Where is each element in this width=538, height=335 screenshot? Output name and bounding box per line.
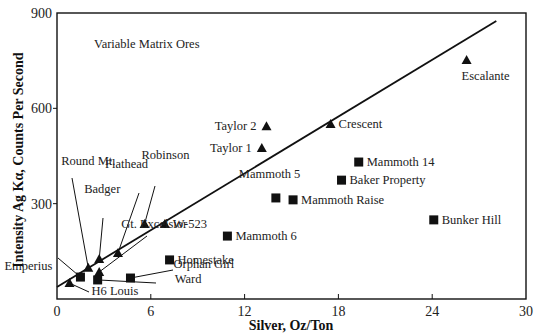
point-label-bunker-hill: Bunker Hill <box>442 213 502 227</box>
point-label-taylor-2: Taylor 2 <box>215 119 257 133</box>
point-label-mammoth-6: Mammoth 6 <box>235 229 296 243</box>
point-label-homestake: Homestake <box>178 253 235 267</box>
square-marker-baker-property <box>337 176 346 185</box>
y-tick-label: 900 <box>31 6 52 21</box>
point-label-gt-excelsior: Gt. Excelsior <box>121 217 188 231</box>
regression-line <box>57 21 496 287</box>
point-labels: EscalanteCrescentTaylor 2Taylor 1Robinso… <box>4 69 509 298</box>
x-axis-title: Silver, Oz/Ton <box>249 318 334 333</box>
point-label-round-mt: Round Mt. <box>61 154 115 168</box>
x-tick-label: 6 <box>147 304 154 319</box>
point-label-crescent: Crescent <box>339 117 383 131</box>
square-marker-orphan-girl <box>126 274 135 283</box>
triangle-marker-gt-excelsior <box>94 267 104 276</box>
y-tick-label: 300 <box>31 197 52 212</box>
triangle-marker-round-mt <box>83 263 93 272</box>
y-tick-label: 600 <box>31 101 52 116</box>
scatter-chart: 0612182430300600900 EscalanteCrescentTay… <box>0 0 538 335</box>
point-label-mammoth-14: Mammoth 14 <box>367 155 435 169</box>
triangle-marker-h6-louis <box>65 278 75 287</box>
square-marker-mammoth-5 <box>271 193 280 202</box>
square-marker-mammoth-raise <box>289 195 298 204</box>
x-tick-label: 24 <box>425 304 439 319</box>
square-marker-ward <box>93 275 102 284</box>
triangle-marker-taylor-2 <box>261 121 271 130</box>
y-axis-title: Intensity Ag Kα, Counts Per Second <box>11 52 26 267</box>
triangle-marker-taylor-1 <box>257 143 267 152</box>
leader-badger <box>99 218 103 259</box>
point-label-mammoth-raise: Mammoth Raise <box>301 193 384 207</box>
square-marker-mammoth-6 <box>223 232 232 241</box>
fit-line <box>57 21 496 287</box>
point-label-baker-property: Baker Property <box>350 173 427 187</box>
triangle-marker-escalante <box>462 55 472 64</box>
point-label-taylor-1: Taylor 1 <box>210 141 252 155</box>
square-marker-emperius <box>76 273 85 282</box>
chart-annotation: Variable Matrix Ores <box>94 37 200 51</box>
x-tick-label: 30 <box>519 304 533 319</box>
leader-orphan-girl <box>130 270 173 278</box>
point-label-ward: Ward <box>175 272 203 286</box>
point-label-h6-louis: H6 Louis <box>92 284 139 298</box>
point-label-badger: Badger <box>84 182 121 196</box>
square-marker-mammoth-14 <box>354 158 363 167</box>
point-label-mammoth-5: Mammoth 5 <box>239 167 300 181</box>
x-tick-label: 18 <box>331 304 345 319</box>
square-marker-bunker-hill <box>429 215 438 224</box>
leader-gt-excelsior <box>99 236 147 272</box>
x-tick-label: 0 <box>54 304 61 319</box>
point-label-escalante: Escalante <box>462 69 510 83</box>
point-label-robinson: Robinson <box>142 148 191 162</box>
x-tick-label: 12 <box>238 304 252 319</box>
